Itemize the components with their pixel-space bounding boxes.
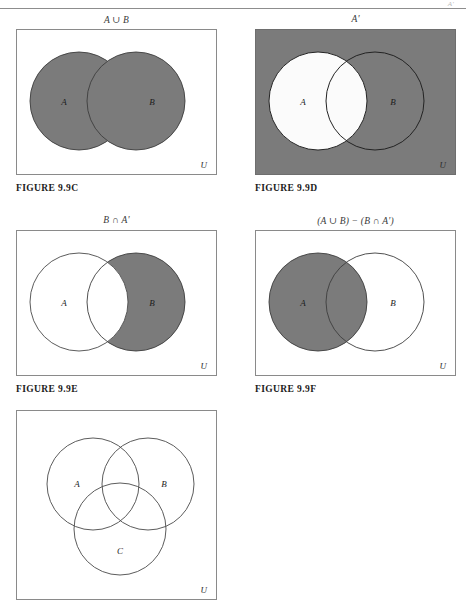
circle-a-label: A xyxy=(60,298,67,308)
figure-9-9d-caption: FIGURE 9.9D xyxy=(255,183,317,193)
figure-9-9c-universe-box: A B U xyxy=(16,29,217,175)
circle-b-label: B xyxy=(390,97,396,107)
circle-b-label: B xyxy=(161,479,167,489)
figure-9-9c-caption: FIGURE 9.9C xyxy=(16,183,78,193)
circle-b-label: B xyxy=(149,298,155,308)
figure-9-9d-universe-box: A B U xyxy=(255,29,456,175)
figure-9-9e-universe-label: U xyxy=(201,361,208,371)
circle-a-label: A xyxy=(73,479,80,489)
circle-b xyxy=(87,52,185,150)
figure-9-9f-title: (A ∪ B) − (B ∩ A') xyxy=(255,215,456,226)
circle-c xyxy=(74,483,166,575)
figure-9-9e-title: B ∩ A' xyxy=(16,215,217,225)
figure-9-9d-title: A' xyxy=(255,14,456,24)
circle-c-label: C xyxy=(117,546,124,556)
figure-9-9g-venn: A B C xyxy=(17,411,218,600)
figure-9-9c-universe-label: U xyxy=(201,160,208,170)
figure-9-9d: A' A B U FIGURE 9.9D xyxy=(255,14,456,200)
circle-a-label: A xyxy=(60,97,67,107)
page-header-fragment: A' xyxy=(448,0,454,8)
figure-9-9f-universe-box: A B U xyxy=(255,230,456,376)
figure-9-9e-caption: FIGURE 9.9E xyxy=(16,384,78,394)
figure-9-9c: A ∪ B A B U FIGURE 9.9C xyxy=(16,14,217,200)
shaded-region-b-minus-a xyxy=(17,231,218,377)
circle-b-label: B xyxy=(390,298,396,308)
circle-a xyxy=(47,438,139,530)
figure-9-9g: A B C U xyxy=(16,410,217,600)
figure-9-9e-universe-box: A B U xyxy=(16,230,217,376)
figure-9-9f-venn: A B xyxy=(256,231,457,377)
circle-a xyxy=(269,253,367,351)
figure-9-9c-venn: A B xyxy=(17,30,218,176)
circle-b xyxy=(102,438,194,530)
figure-9-9f-universe-label: U xyxy=(440,361,447,371)
figure-9-9f: (A ∪ B) − (B ∩ A') A B U FIGURE 9.9F xyxy=(255,215,456,401)
figure-9-9c-title: A ∪ B xyxy=(16,14,217,25)
figure-9-9d-universe-label: U xyxy=(440,160,447,170)
circle-a-label: A xyxy=(299,97,306,107)
figure-9-9e-venn: A B xyxy=(17,231,218,377)
circle-a xyxy=(269,52,367,150)
figure-9-9f-caption: FIGURE 9.9F xyxy=(255,384,316,394)
figure-9-9g-universe-label: U xyxy=(201,585,208,595)
circle-b-label: B xyxy=(149,97,155,107)
figure-9-9d-venn: A B xyxy=(256,30,457,176)
circle-a-label: A xyxy=(299,298,306,308)
page-header-rule xyxy=(0,8,466,9)
figure-9-9g-universe-box: A B C U xyxy=(16,410,217,600)
figure-9-9e: B ∩ A' A B U FIGURE 9.9E xyxy=(16,215,217,401)
